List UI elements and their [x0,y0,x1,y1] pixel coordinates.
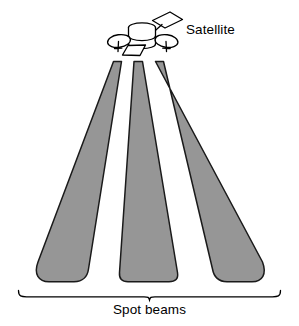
diagram-canvas [0,0,299,326]
left-spot-beam [36,62,121,282]
brace-path [19,291,281,301]
solar-panel [153,12,183,28]
spot-beams-label: Spot beams [0,302,299,317]
satellite-drawing [107,12,183,56]
center-spot-beam [119,62,177,282]
satellite-spot-beams-figure: Satellite Spot beams [0,0,299,326]
spot-beams-brace [19,291,281,301]
satellite-label: Satellite [186,22,235,37]
lower-panel [123,45,146,56]
spot-beam-group [36,62,264,282]
